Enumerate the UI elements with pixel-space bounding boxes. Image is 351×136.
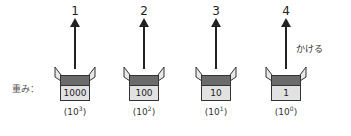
box-icon: 1000 bbox=[60, 70, 90, 100]
arrow-shaft bbox=[143, 24, 145, 69]
box-value: 100 bbox=[129, 85, 159, 101]
position-number: 4 bbox=[266, 4, 306, 18]
exponent-label: (101) bbox=[196, 105, 236, 117]
box-icon: 100 bbox=[129, 70, 159, 100]
position-number: 3 bbox=[196, 4, 236, 18]
exponent-label: (100) bbox=[266, 105, 306, 117]
arrow-shaft bbox=[215, 24, 217, 69]
exponent-label: (102) bbox=[124, 105, 164, 117]
position-number: 2 bbox=[124, 4, 164, 18]
weight-label: 重み： bbox=[12, 82, 39, 95]
box-value: 1 bbox=[271, 85, 301, 101]
box-value: 10 bbox=[201, 85, 231, 101]
digit-column-3: 3 10 (101) bbox=[196, 0, 236, 136]
digit-column-2: 2 100 (102) bbox=[124, 0, 164, 136]
arrow-shaft bbox=[285, 24, 287, 69]
digit-column-4: 4 1 (100) bbox=[266, 0, 306, 136]
position-number: 1 bbox=[55, 4, 95, 18]
box-icon: 1 bbox=[271, 70, 301, 100]
box-value: 1000 bbox=[60, 85, 90, 101]
box-icon: 10 bbox=[201, 70, 231, 100]
digit-column-1: 1 1000 (103) bbox=[55, 0, 95, 136]
exponent-label: (103) bbox=[55, 105, 95, 117]
arrow-shaft bbox=[74, 24, 76, 69]
